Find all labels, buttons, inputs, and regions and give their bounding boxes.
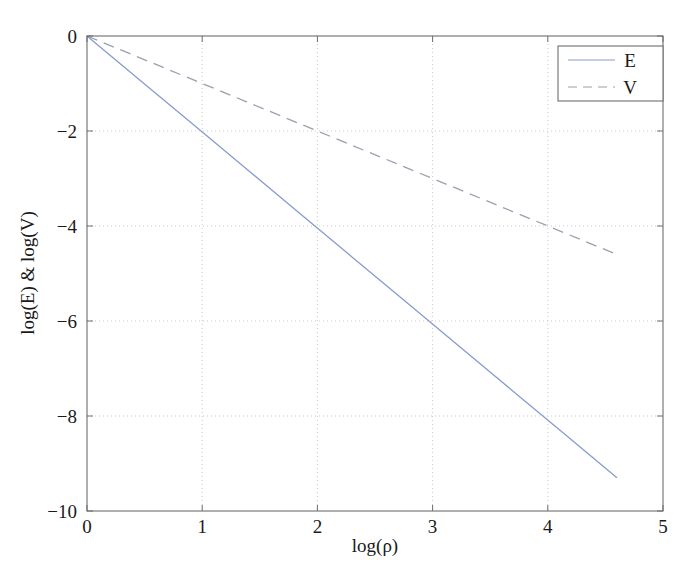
y-tick-label: 0 bbox=[68, 26, 78, 47]
x-tick-label: 3 bbox=[428, 516, 438, 537]
y-tick-label: −4 bbox=[57, 216, 78, 237]
y-axis-title: log(E) & log(V) bbox=[17, 211, 39, 334]
x-tick-label: 1 bbox=[197, 516, 207, 537]
legend-label-v: V bbox=[623, 77, 637, 98]
x-tick-label: 4 bbox=[543, 516, 553, 537]
x-axis-title: log(ρ) bbox=[352, 535, 398, 557]
legend[interactable]: E V bbox=[558, 46, 663, 101]
x-tick-label: 2 bbox=[313, 516, 323, 537]
y-tick-label: −2 bbox=[57, 121, 77, 142]
x-tick-label: 5 bbox=[658, 516, 668, 537]
x-tick-label: 0 bbox=[82, 516, 92, 537]
legend-box bbox=[558, 46, 663, 101]
line-chart: 012345 0−2−4−6−8−10 log(ρ) log(E) & log(… bbox=[0, 0, 687, 571]
legend-label-e: E bbox=[624, 50, 636, 71]
y-tick-label: −6 bbox=[57, 311, 77, 332]
chart-figure: 012345 0−2−4−6−8−10 log(ρ) log(E) & log(… bbox=[0, 0, 687, 571]
y-tick-label: −8 bbox=[57, 406, 77, 427]
y-tick-label: −10 bbox=[47, 501, 77, 522]
